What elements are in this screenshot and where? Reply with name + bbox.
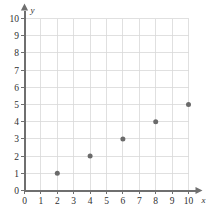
x-axis-label: x	[201, 195, 206, 205]
y-tick-label: 0	[14, 186, 19, 196]
y-tick-label: 1	[14, 169, 19, 179]
x-tick-label: 8	[153, 196, 158, 206]
y-tick-label: 3	[14, 134, 19, 144]
y-axis-arrow-icon	[21, 4, 28, 11]
x-axis-tick-labels: 012345678910	[22, 196, 193, 206]
x-tick-label: 0	[22, 196, 27, 206]
x-tick-label: 3	[71, 196, 76, 206]
scatter-plot-figure: 012345678910 012345678910 x y	[0, 0, 209, 220]
coordinate-plane: 012345678910 012345678910 x y	[0, 0, 209, 220]
y-axis-tick-labels: 012345678910	[10, 14, 20, 196]
x-tick-label: 2	[55, 196, 60, 206]
axes	[21, 4, 203, 195]
y-tick-label: 4	[14, 117, 19, 127]
y-tick-label: 5	[14, 100, 19, 110]
data-point	[186, 102, 191, 107]
x-tick-label: 10	[184, 196, 194, 206]
x-tick-label: 7	[137, 196, 142, 206]
y-tick-label: 2	[14, 152, 19, 162]
y-tick-label: 9	[14, 31, 19, 41]
data-point	[55, 171, 60, 176]
y-tick-label: 6	[14, 83, 19, 93]
data-point	[120, 136, 125, 141]
x-tick-label: 6	[121, 196, 126, 206]
x-tick-label: 4	[88, 196, 93, 206]
y-axis-label: y	[30, 5, 35, 15]
y-tick-label: 7	[14, 66, 19, 76]
x-tick-label: 5	[104, 196, 109, 206]
y-tick-label: 10	[10, 14, 20, 24]
x-tick-label: 9	[170, 196, 175, 206]
data-point	[88, 154, 93, 159]
data-point	[153, 119, 158, 124]
y-tick-label: 8	[14, 48, 19, 58]
x-tick-label: 1	[39, 196, 44, 206]
x-axis-arrow-icon	[196, 187, 203, 194]
